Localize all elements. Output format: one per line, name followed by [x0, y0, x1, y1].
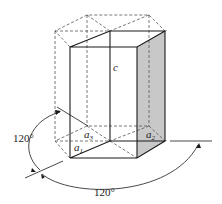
label-c: c: [113, 61, 118, 73]
angle-label-bottom: 120°: [94, 186, 115, 198]
axis-lines: [25, 107, 212, 178]
angle-label-left: 120°: [13, 132, 34, 144]
hexagonal-unit-cell-diagram: c a1 a3 a2 120° 120°: [0, 0, 222, 204]
angle-arcs: [29, 112, 198, 189]
label-a3: a3: [84, 128, 94, 142]
label-a1: a1: [74, 141, 83, 155]
